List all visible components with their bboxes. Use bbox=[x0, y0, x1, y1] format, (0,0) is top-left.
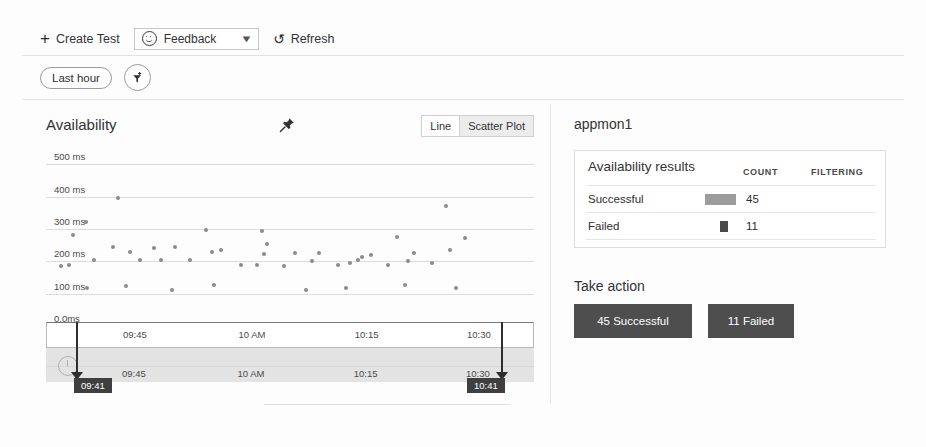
gridline bbox=[46, 229, 534, 230]
scatter-point-successful[interactable] bbox=[85, 286, 89, 290]
add-filter-funnel-icon bbox=[130, 70, 145, 85]
time-range-pill[interactable]: Last hour bbox=[40, 67, 112, 89]
scatter-point-successful[interactable] bbox=[430, 261, 434, 265]
scatter-point-successful[interactable] bbox=[84, 220, 88, 224]
feedback-dropdown[interactable]: Feedback ▼ bbox=[134, 28, 259, 50]
scatter-point-successful[interactable] bbox=[317, 251, 321, 255]
smiley-icon bbox=[142, 31, 157, 46]
scatter-point-successful[interactable] bbox=[454, 286, 458, 290]
result-count-failed: 11 bbox=[746, 220, 758, 232]
y-axis-tick-label: 300 ms bbox=[54, 216, 85, 227]
panel-divider bbox=[550, 104, 551, 404]
time-range-label: Last hour bbox=[52, 72, 100, 84]
result-count-successful: 45 bbox=[746, 193, 759, 205]
scatter-point-successful[interactable] bbox=[304, 288, 308, 292]
scatter-point-successful[interactable] bbox=[293, 251, 297, 255]
scrubber-tick-label: 10:15 bbox=[354, 368, 378, 379]
scatter-point-successful[interactable] bbox=[395, 235, 399, 239]
scatter-point-successful[interactable] bbox=[170, 288, 174, 292]
scatter-point-successful[interactable] bbox=[67, 263, 71, 267]
scatter-point-successful[interactable] bbox=[124, 284, 128, 288]
availability-results-card: Availability results COUNT FILTERING Suc… bbox=[574, 150, 886, 248]
y-axis-tick-label: 100 ms bbox=[54, 281, 85, 292]
scatter-point-successful[interactable] bbox=[210, 250, 214, 254]
chart-header: Availability Line Scatter Plot bbox=[46, 114, 534, 144]
scatter-point-successful[interactable] bbox=[239, 263, 243, 267]
failed-action-button[interactable]: 11 Failed bbox=[708, 304, 794, 338]
add-filter-button[interactable] bbox=[124, 64, 151, 91]
scrubber-handle-end[interactable]: 10:41 bbox=[501, 322, 503, 380]
scatter-point-successful[interactable] bbox=[310, 259, 314, 263]
scatter-point-successful[interactable] bbox=[219, 248, 223, 252]
scatter-point-successful[interactable] bbox=[59, 264, 63, 268]
column-header-filtering: FILTERING bbox=[811, 167, 863, 177]
table-row[interactable]: Failed 11 bbox=[586, 212, 876, 239]
result-label-failed: Failed bbox=[588, 220, 619, 232]
scatter-point-successful[interactable] bbox=[463, 236, 467, 240]
scatter-point-successful[interactable] bbox=[348, 261, 352, 265]
scatter-point-successful[interactable] bbox=[448, 248, 452, 252]
scatter-point-successful[interactable] bbox=[444, 204, 448, 208]
bottom-divider bbox=[264, 404, 511, 405]
scatter-point-successful[interactable] bbox=[173, 245, 177, 249]
create-test-button[interactable]: + Create Test bbox=[40, 30, 120, 47]
refresh-button[interactable]: ↻ Refresh bbox=[273, 32, 335, 46]
swatch-failed bbox=[720, 221, 728, 232]
scrubber-dim-region bbox=[46, 348, 534, 382]
successful-action-button[interactable]: 45 Successful bbox=[574, 304, 692, 338]
scrubber-end-label: 10:41 bbox=[467, 378, 505, 393]
scatter-point-successful[interactable] bbox=[138, 258, 142, 262]
gridline bbox=[46, 294, 534, 295]
scatter-point-successful[interactable] bbox=[262, 252, 266, 256]
results-card-title: Availability results bbox=[588, 159, 695, 174]
result-label-successful: Successful bbox=[588, 193, 644, 205]
scatter-point-successful[interactable] bbox=[128, 250, 132, 254]
x-axis: 09:4510 AM10:1510:30 bbox=[46, 322, 534, 348]
toggle-scatter-plot[interactable]: Scatter Plot bbox=[459, 116, 533, 136]
scatter-point-successful[interactable] bbox=[369, 253, 373, 257]
scatter-plot-area[interactable]: 0.0ms100 ms200 ms300 ms400 ms500 ms bbox=[46, 148, 534, 326]
scrubber-handle-start[interactable]: 09:41 bbox=[76, 322, 78, 380]
availability-dashboard-page: + Create Test Feedback ▼ ↻ Refresh Last … bbox=[0, 0, 926, 447]
scatter-point-successful[interactable] bbox=[265, 242, 269, 246]
scatter-point-successful[interactable] bbox=[116, 196, 120, 200]
plus-icon: + bbox=[40, 30, 50, 47]
refresh-icon: ↻ bbox=[273, 32, 285, 46]
chart-title: Availability bbox=[46, 116, 117, 133]
scatter-point-successful[interactable] bbox=[212, 283, 216, 287]
scatter-point-successful[interactable] bbox=[204, 228, 208, 232]
pushpin-icon[interactable] bbox=[278, 116, 296, 138]
scrubber-track[interactable]: 09:4510 AM10:1510:30 bbox=[46, 348, 534, 382]
filter-bar: Last hour bbox=[22, 56, 904, 100]
create-test-label: Create Test bbox=[56, 32, 120, 46]
scatter-point-successful[interactable] bbox=[386, 263, 390, 267]
take-action-buttons: 45 Successful 11 Failed bbox=[574, 304, 794, 338]
dashboard-content: Availability Line Scatter Plot 0.0ms100 … bbox=[22, 100, 904, 420]
toggle-line[interactable]: Line bbox=[422, 116, 459, 136]
scrubber-midline bbox=[46, 366, 534, 367]
scatter-point-successful[interactable] bbox=[71, 233, 75, 237]
table-row[interactable]: Successful 45 bbox=[586, 185, 876, 212]
y-axis-tick-label: 500 ms bbox=[54, 151, 85, 162]
scrubber-start-label: 09:41 bbox=[74, 378, 112, 393]
scatter-point-successful[interactable] bbox=[188, 258, 192, 262]
scatter-point-successful[interactable] bbox=[282, 264, 286, 268]
take-action-title: Take action bbox=[574, 278, 645, 294]
swatch-successful bbox=[705, 194, 736, 205]
scatter-point-successful[interactable] bbox=[344, 286, 348, 290]
scrubber-tick-label: 09:45 bbox=[122, 368, 146, 379]
scatter-point-successful[interactable] bbox=[403, 283, 407, 287]
scatter-point-successful[interactable] bbox=[260, 229, 264, 233]
scatter-point-successful[interactable] bbox=[152, 246, 156, 250]
scatter-point-successful[interactable] bbox=[360, 255, 364, 259]
scatter-point-successful[interactable] bbox=[412, 251, 416, 255]
time-range-scrubber[interactable]: 09:4510 AM10:1510:30 09:41 10:41 bbox=[46, 348, 534, 386]
feedback-value: Feedback bbox=[164, 32, 231, 46]
scatter-point-successful[interactable] bbox=[255, 263, 259, 267]
scatter-point-successful[interactable] bbox=[92, 258, 96, 262]
scatter-point-successful[interactable] bbox=[111, 245, 115, 249]
scatter-point-successful[interactable] bbox=[406, 259, 410, 263]
y-axis-tick-label: 200 ms bbox=[54, 248, 85, 259]
x-axis-tick-label: 10 AM bbox=[238, 329, 265, 340]
scatter-point-successful[interactable] bbox=[336, 263, 340, 267]
